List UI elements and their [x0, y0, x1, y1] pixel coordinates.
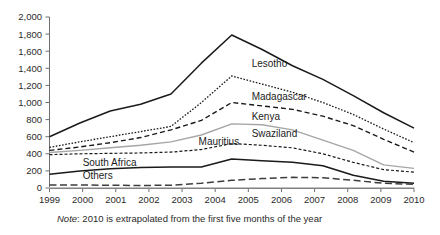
note-prefix: Note — [57, 213, 77, 224]
x-tick-label: 2009 — [370, 194, 391, 205]
series-inline-labels: LesothoMadagascarKenyaSwazilandMauritius… — [83, 58, 308, 181]
x-tick-label: 2010 — [403, 194, 424, 205]
x-tick-label: 2005 — [238, 194, 259, 205]
y-axis-ticks — [46, 17, 50, 188]
y-tick-label: 1,800 — [18, 29, 42, 40]
series-line-lesotho — [50, 35, 415, 137]
y-axis-tick-labels: 02004006008001,0001,2001,4001,6001,8002,… — [18, 11, 42, 193]
y-tick-label: 2,000 — [18, 11, 42, 22]
x-tick-label: 2001 — [105, 194, 126, 205]
y-tick-label: 400 — [26, 148, 42, 159]
y-tick-label: 800 — [26, 114, 42, 125]
series-label-others: Others — [83, 170, 113, 181]
y-tick-label: 200 — [26, 165, 42, 176]
x-tick-label: 2006 — [271, 194, 292, 205]
svg-text:Note: 2010 is extrapolated fro: Note: 2010 is extrapolated from the firs… — [57, 213, 322, 224]
x-tick-label: 2007 — [304, 194, 325, 205]
x-tick-label: 1999 — [39, 194, 60, 205]
x-axis-tick-labels: 1999200020012002200320042005200620072008… — [39, 194, 425, 205]
x-axis: 1999200020012002200320042005200620072008… — [39, 189, 425, 206]
y-tick-label: 1,600 — [18, 46, 42, 57]
series-label-swaziland: Swaziland — [252, 128, 298, 139]
line-chart-canvas: 02004006008001,0001,2001,4001,6001,8002,… — [0, 0, 440, 235]
y-tick-label: 0 — [37, 182, 42, 193]
x-tick-label: 2002 — [138, 194, 159, 205]
series-label-south-africa: South Africa — [83, 157, 137, 168]
y-tick-label: 600 — [26, 131, 42, 142]
plot-area: 02004006008001,0001,2001,4001,6001,8002,… — [18, 11, 424, 205]
x-tick-label: 2000 — [72, 194, 93, 205]
series-label-kenya: Kenya — [252, 111, 281, 122]
y-tick-label: 1,400 — [18, 63, 42, 74]
series-label-lesotho: Lesotho — [252, 58, 288, 69]
chart-note: Note: 2010 is extrapolated from the firs… — [57, 213, 322, 224]
x-tick-label: 2008 — [337, 194, 358, 205]
y-axis: 02004006008001,0001,2001,4001,6001,8002,… — [18, 11, 49, 193]
x-tick-label: 2003 — [171, 194, 192, 205]
series-label-madagascar: Madagascar — [252, 91, 308, 102]
y-tick-label: 1,200 — [18, 80, 42, 91]
chart-figure: 02004006008001,0001,2001,4001,6001,8002,… — [0, 0, 440, 235]
x-tick-label: 2004 — [205, 194, 226, 205]
series-label-mauritius: Mauritius — [199, 136, 240, 147]
y-tick-label: 1,000 — [18, 97, 42, 108]
note-body: : 2010 is extrapolated from the first fi… — [77, 213, 322, 224]
x-axis-ticks — [50, 189, 415, 193]
